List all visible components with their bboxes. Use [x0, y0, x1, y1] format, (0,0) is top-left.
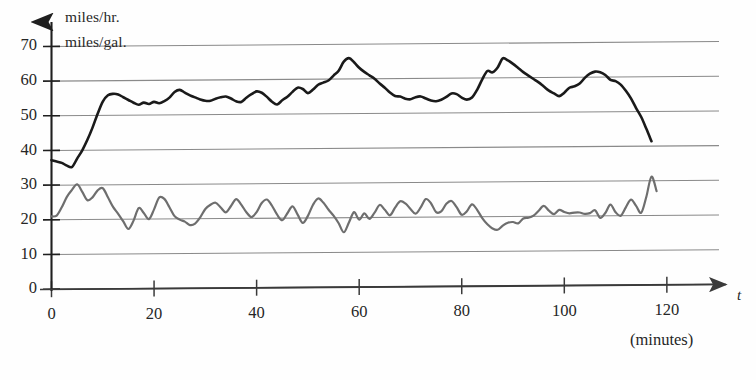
gridline — [52, 76, 720, 81]
gridline — [52, 250, 720, 255]
y-axis-label-speed: miles/hr. — [65, 8, 120, 26]
y-tick-label: 40 — [3, 140, 37, 160]
x-tick-label: 80 — [442, 301, 482, 321]
x-axis-variable-label: t — [737, 287, 741, 304]
gridline — [52, 146, 720, 151]
x-tick-label: 0 — [32, 304, 72, 324]
x-axis — [40, 285, 726, 290]
gridline — [52, 180, 720, 185]
y-axis-label-mpg: miles/gal. — [65, 33, 127, 51]
y-tick-label: 70 — [3, 35, 37, 55]
y-tick-label: 20 — [3, 209, 37, 229]
y-tick-label: 30 — [3, 174, 37, 194]
y-tick-label: 50 — [3, 105, 37, 125]
y-tick-label: 10 — [3, 244, 37, 264]
x-tick-label: 120 — [647, 300, 687, 320]
x-tick-label: 40 — [237, 303, 277, 323]
series-speed-line — [52, 58, 652, 167]
chart-figure: miles/hr. miles/gal. 010203040506070 020… — [0, 0, 756, 380]
gridline — [52, 111, 720, 116]
x-tick-label: 60 — [339, 302, 379, 322]
chart-canvas — [0, 0, 756, 380]
x-axis-units-label: (minutes) — [630, 330, 693, 350]
x-tick-label: 100 — [544, 301, 584, 321]
gridlines — [52, 42, 720, 290]
x-tick-label: 20 — [134, 304, 174, 324]
y-tick-label: 0 — [3, 278, 37, 298]
y-tick-label: 60 — [3, 70, 37, 90]
gridline — [52, 42, 720, 47]
